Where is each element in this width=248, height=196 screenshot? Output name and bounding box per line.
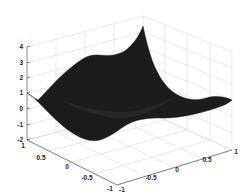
x-axis: -1 -0.5 0 0.5 1 (117, 148, 238, 193)
y-tick-label: -0.5 (81, 174, 93, 181)
x-tick-label: 1 (234, 148, 238, 155)
z-tick-label: 3 (19, 59, 23, 66)
x-tick-label: -0.5 (145, 174, 157, 181)
z-tick-label: 1 (19, 89, 23, 96)
z-tick-label: 2 (19, 74, 23, 81)
surface (27, 26, 232, 141)
z-axis: 4 3 2 1 0 -1 -2 (17, 43, 30, 143)
z-tick-label: -1 (17, 121, 23, 128)
y-tick-label: 0 (65, 163, 69, 170)
surface-plot: 4 3 2 1 0 -1 -2 1 0.5 0 -0.5 -1 -1 -0.5 … (0, 0, 248, 196)
y-tick-label: 1 (21, 142, 25, 149)
y-tick-label: 0.5 (36, 154, 45, 161)
z-tick-label: 4 (19, 43, 23, 50)
y-axis: 1 0.5 0 -0.5 -1 (21, 140, 117, 192)
z-tick-label: 0 (19, 105, 23, 112)
x-tick-label: 0.5 (202, 156, 211, 163)
x-tick-label: 0 (175, 166, 179, 173)
y-tick-label: -1 (107, 185, 113, 192)
x-tick-label: -1 (119, 186, 125, 193)
